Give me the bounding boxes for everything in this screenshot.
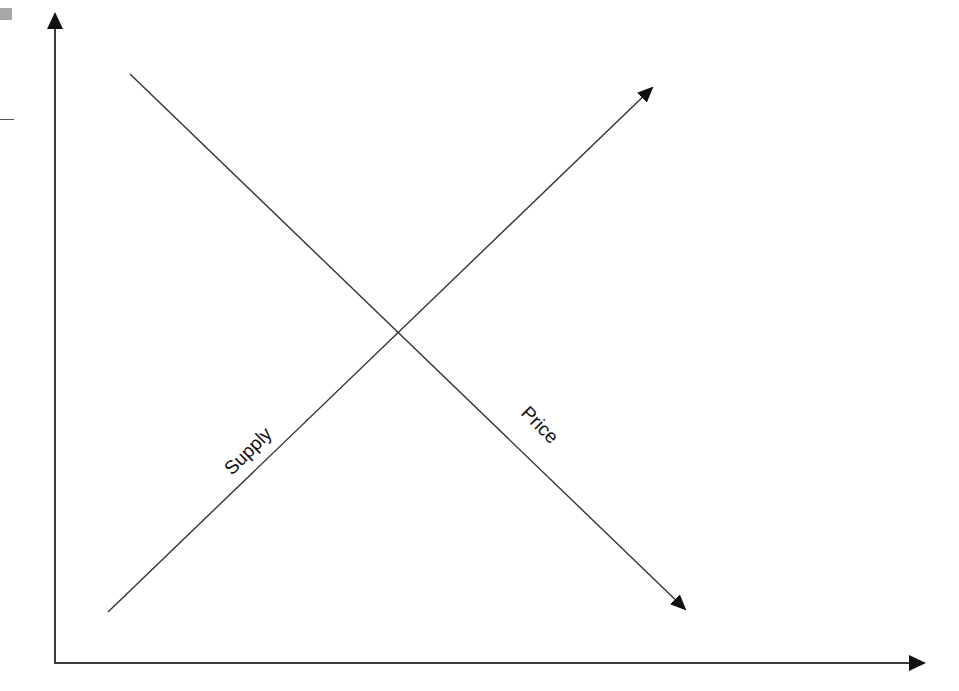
y-axis [47,12,63,663]
x-axis-arrow-icon [909,655,926,671]
supply-line [108,88,652,612]
price-label: Price [517,402,562,447]
x-axis [54,655,926,671]
diagram-canvas: Supply Price [0,0,959,691]
price-line [130,74,685,609]
supply-label: Supply [220,423,276,479]
y-axis-arrow-icon [47,12,63,29]
